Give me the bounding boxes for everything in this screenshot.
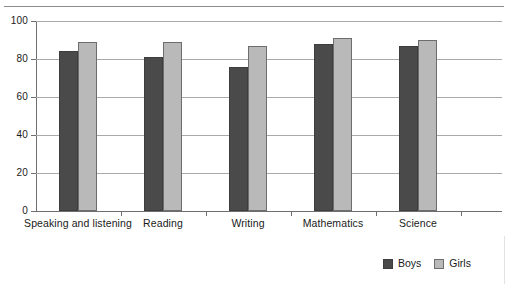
bar-boys-speaking-and-listening[interactable] bbox=[59, 51, 78, 211]
legend-swatch-girls-icon bbox=[434, 259, 444, 269]
chart-legend: Boys Girls bbox=[383, 258, 471, 269]
y-tick-label-20: 20 bbox=[16, 168, 28, 178]
top-divider-rule bbox=[4, 6, 504, 7]
y-tick-label-80: 80 bbox=[16, 54, 28, 64]
legend-entry-girls[interactable]: Girls bbox=[434, 258, 471, 269]
y-tick-label-0: 0 bbox=[22, 206, 28, 216]
page-edge-line bbox=[504, 236, 505, 284]
bar-group-science bbox=[399, 21, 437, 211]
clipped-caption-text bbox=[6, 0, 306, 5]
legend-entry-boys[interactable]: Boys bbox=[383, 258, 421, 269]
bar-boys-mathematics[interactable] bbox=[314, 44, 333, 211]
legend-swatch-boys-icon bbox=[383, 259, 393, 269]
y-tick-label-60: 60 bbox=[16, 92, 28, 102]
x-tick-1 bbox=[121, 211, 122, 216]
y-tick-0 bbox=[31, 211, 36, 212]
x-tick-4 bbox=[376, 211, 377, 216]
bar-chart-figure: 100 80 60 40 20 0 bbox=[0, 0, 511, 284]
y-tick-label-100: 100 bbox=[11, 16, 28, 26]
bar-group-writing bbox=[229, 21, 267, 211]
x-tick-5 bbox=[461, 211, 462, 216]
legend-label-boys: Boys bbox=[398, 258, 421, 269]
bar-girls-writing[interactable] bbox=[248, 46, 267, 211]
plot-area: 100 80 60 40 20 0 bbox=[36, 21, 502, 211]
bar-boys-science[interactable] bbox=[399, 46, 418, 211]
x-tick-2 bbox=[206, 211, 207, 216]
x-tick-3 bbox=[291, 211, 292, 216]
bar-girls-reading[interactable] bbox=[163, 42, 182, 211]
bar-girls-speaking-and-listening[interactable] bbox=[78, 42, 97, 211]
x-axis-label-science: Science bbox=[363, 217, 473, 230]
bar-group-mathematics bbox=[314, 21, 352, 211]
bar-girls-science[interactable] bbox=[418, 40, 437, 211]
bar-boys-reading[interactable] bbox=[144, 57, 163, 211]
bar-girls-mathematics[interactable] bbox=[333, 38, 352, 211]
gridline-0-baseline: 0 bbox=[36, 211, 502, 212]
bar-group-speaking-and-listening bbox=[59, 21, 97, 211]
bar-group-reading bbox=[144, 21, 182, 211]
bars-layer bbox=[36, 21, 502, 211]
legend-label-girls: Girls bbox=[449, 258, 471, 269]
bar-boys-writing[interactable] bbox=[229, 67, 248, 211]
y-tick-label-40: 40 bbox=[16, 130, 28, 140]
